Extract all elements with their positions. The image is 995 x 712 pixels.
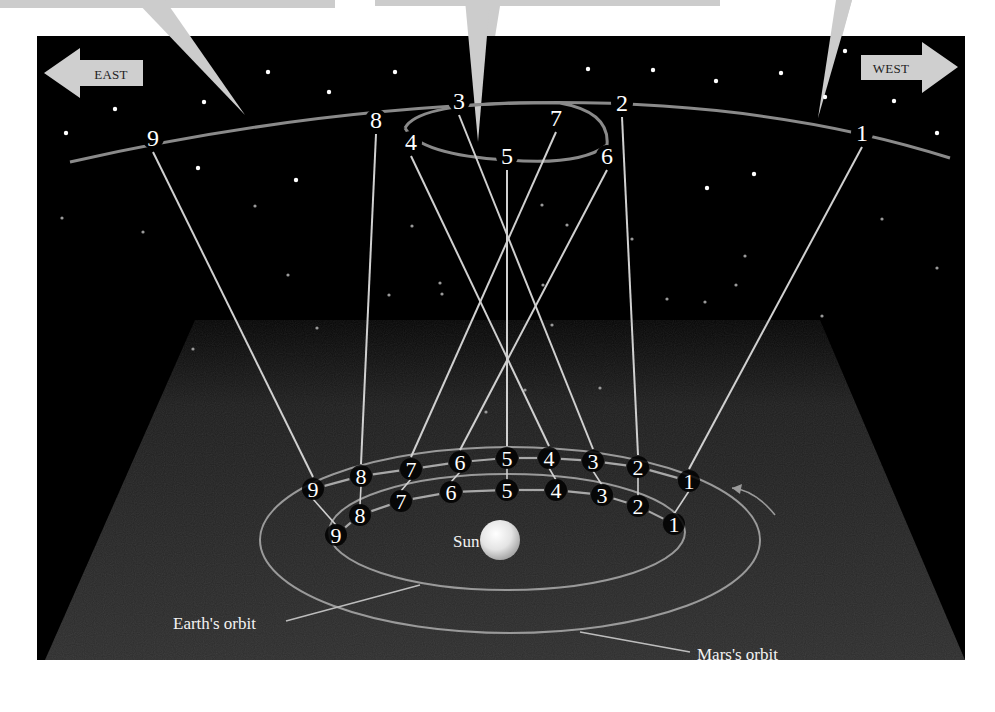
mars-path-segment [561,459,581,460]
star [191,347,194,350]
mars-position-1: 1 [684,469,695,494]
sky-position-9: 9 [147,125,159,151]
star [266,70,270,74]
sky-position-3: 3 [453,88,465,114]
star [565,223,568,226]
star [880,217,883,220]
star [540,203,543,206]
mars-position-3: 3 [588,449,599,474]
mars-position-8: 8 [356,464,367,489]
earth-position-4: 4 [551,478,562,503]
star [294,178,298,182]
star [714,79,718,83]
star [705,186,709,190]
star [703,300,706,303]
sky-position-7: 7 [550,105,562,131]
earth-position-3: 3 [597,483,608,508]
earth-orbit-label: Earth's orbit [173,614,256,633]
earth-position-9: 9 [331,523,342,548]
star [779,71,783,75]
star [393,70,397,74]
east-label: EAST [94,67,128,82]
star [550,323,553,326]
star [410,224,413,227]
star [665,297,668,300]
mars-position-7: 7 [406,457,417,482]
sky-position-8: 8 [370,107,382,133]
earth-path-segment [463,490,495,491]
earth-position-5: 5 [502,478,513,503]
star [253,204,256,207]
star [598,386,601,389]
star [202,100,206,104]
star [141,230,144,233]
earth-position-8: 8 [355,503,366,528]
star [843,49,847,53]
star [823,95,827,99]
star [935,266,938,269]
earth-position-7: 7 [396,489,407,514]
sun [480,520,520,560]
sky-position-4: 4 [405,129,417,155]
sky-position-6: 6 [601,143,613,169]
star [820,314,823,317]
star [196,166,200,170]
star [60,216,63,219]
mars-position-9: 9 [308,477,319,502]
star [286,273,289,276]
sky-position-5: 5 [501,143,513,169]
mars-position-5: 5 [502,446,513,471]
west-label: WEST [873,61,910,76]
star [630,237,633,240]
star [484,410,487,413]
star [440,292,443,295]
sky-position-1: 1 [856,120,868,146]
star [586,67,590,71]
mars-orbit-label: Mars's orbit [697,645,778,664]
earth-position-1: 1 [669,512,680,537]
sky-position-2: 2 [616,90,628,116]
star [327,90,331,94]
earth-position-6: 6 [446,480,457,505]
star [734,283,737,286]
star [438,281,441,284]
retrograde-motion-diagram: EAST WEST Sun Earth's orbit Mars's orbit… [0,0,995,712]
star [892,99,896,103]
mars-position-2: 2 [633,455,644,480]
star [651,68,655,72]
star [387,293,390,296]
star [541,283,544,286]
star [743,254,746,257]
earth-position-2: 2 [633,494,644,519]
star [113,107,117,111]
star [315,326,318,329]
star [935,131,939,135]
mars-position-4: 4 [544,446,555,471]
star [752,172,756,176]
mars-position-6: 6 [455,450,466,475]
star [64,131,68,135]
sun-label: Sun [453,532,480,551]
